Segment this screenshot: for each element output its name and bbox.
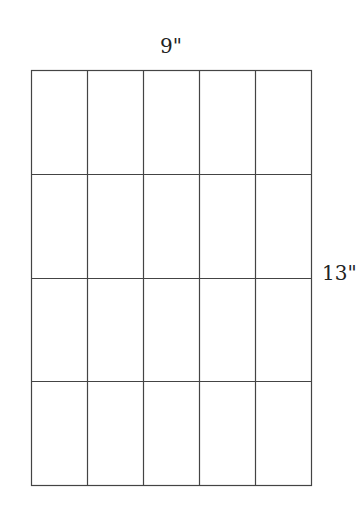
rectangle-grid (0, 0, 364, 515)
